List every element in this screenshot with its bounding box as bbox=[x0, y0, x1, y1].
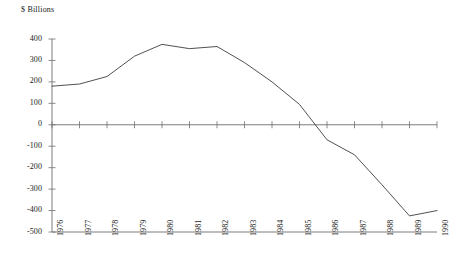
axis-ticks bbox=[49, 39, 438, 232]
plot-area bbox=[0, 0, 459, 257]
axis-lines bbox=[52, 39, 437, 232]
data-series-line bbox=[52, 44, 437, 216]
chart-figure: $ Billions 4003002001000-100-200-300-400… bbox=[0, 0, 459, 257]
